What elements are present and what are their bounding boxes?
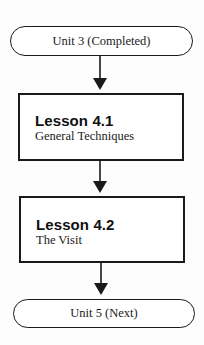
lesson-4-2-subtitle: The Visit bbox=[36, 233, 82, 248]
lesson-4-1-subtitle: General Techniques bbox=[35, 129, 134, 144]
process-node-lesson-4-1: Lesson 4.1 General Techniques bbox=[18, 93, 184, 161]
lesson-4-1-title: Lesson 4.1 bbox=[35, 112, 114, 129]
start-node-unit-3: Unit 3 (Completed) bbox=[10, 26, 193, 56]
end-node-label: Unit 5 (Next) bbox=[70, 306, 137, 321]
process-node-lesson-4-2: Lesson 4.2 The Visit bbox=[19, 196, 185, 263]
start-node-label: Unit 3 (Completed) bbox=[53, 34, 151, 49]
end-node-unit-5: Unit 5 (Next) bbox=[13, 299, 195, 328]
arrow-lesson42-to-unit5 bbox=[91, 263, 111, 299]
lesson-4-2-title: Lesson 4.2 bbox=[36, 216, 115, 233]
arrow-unit3-to-lesson41 bbox=[90, 56, 110, 94]
arrow-lesson41-to-lesson42 bbox=[90, 161, 110, 196]
flowchart-canvas: Unit 3 (Completed) Lesson 4.1 General Te… bbox=[0, 0, 204, 345]
